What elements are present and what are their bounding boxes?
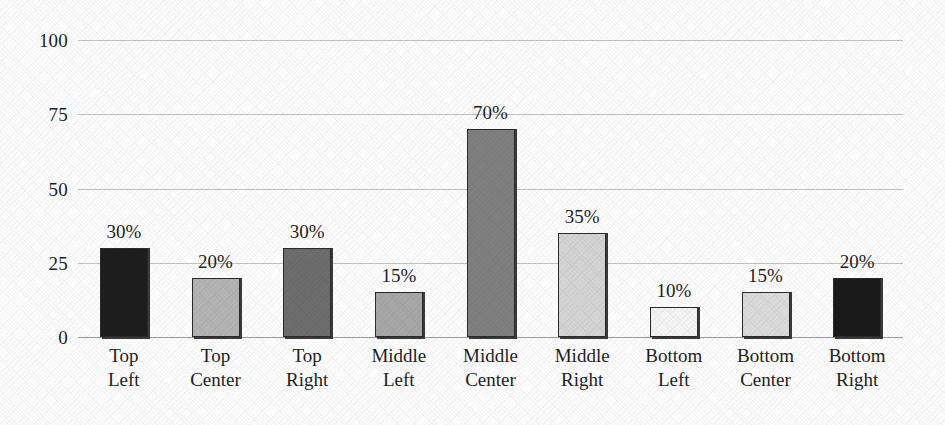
bar	[742, 292, 790, 337]
bar	[375, 292, 423, 337]
x-label-line-2: Right	[537, 368, 627, 392]
bar-group: 15%	[354, 40, 444, 337]
y-axis-tick-label: 0	[6, 328, 68, 347]
bar-group: 20%	[171, 40, 261, 337]
x-axis-tick-label: BottomCenter	[721, 344, 811, 393]
x-label-line-1: Middle	[537, 344, 627, 368]
x-label-line-2: Left	[79, 368, 169, 392]
x-axis-tick-label: MiddleRight	[537, 344, 627, 393]
bar-group: 35%	[537, 40, 627, 337]
x-label-line-2: Center	[721, 368, 811, 392]
x-axis-tick-label: BottomRight	[812, 344, 902, 393]
bar	[467, 129, 515, 337]
bar-value-label: 15%	[381, 266, 416, 285]
x-label-line-2: Right	[262, 368, 352, 392]
x-label-line-2: Center	[446, 368, 536, 392]
bar-value-label: 70%	[473, 103, 508, 122]
x-label-line-2: Left	[629, 368, 719, 392]
bar-group: 15%	[721, 40, 811, 337]
x-axis-tick-label: MiddleLeft	[354, 344, 444, 393]
x-label-line-1: Top	[79, 344, 169, 368]
bar-value-label: 20%	[840, 252, 875, 271]
bar-group: 30%	[262, 40, 352, 337]
x-label-line-2: Left	[354, 368, 444, 392]
y-axis-tick-label: 75	[6, 105, 68, 124]
x-label-line-1: Top	[262, 344, 352, 368]
y-axis-tick-label: 50	[6, 179, 68, 198]
x-label-line-1: Bottom	[629, 344, 719, 368]
bar-value-label: 35%	[565, 207, 600, 226]
x-label-line-1: Bottom	[721, 344, 811, 368]
x-axis: TopLeftTopCenterTopRightMiddleLeftMiddle…	[78, 344, 903, 414]
bar-value-label: 15%	[748, 266, 783, 285]
x-label-line-2: Right	[812, 368, 902, 392]
y-axis-tick-label: 100	[6, 31, 68, 50]
bar-value-label: 20%	[198, 252, 233, 271]
bar-value-label: 10%	[656, 281, 691, 300]
bar-group: 20%	[812, 40, 902, 337]
x-label-line-1: Top	[171, 344, 261, 368]
x-axis-tick-label: TopRight	[262, 344, 352, 393]
bar	[833, 278, 881, 337]
bar	[192, 278, 240, 337]
x-axis-tick-label: MiddleCenter	[446, 344, 536, 393]
x-label-line-2: Center	[171, 368, 261, 392]
bar	[558, 233, 606, 337]
bar	[283, 248, 331, 337]
x-axis-tick-label: TopLeft	[79, 344, 169, 393]
bar-group: 30%	[79, 40, 169, 337]
bar-chart: 0255075100 30%20%30%15%70%35%10%15%20% T…	[0, 0, 945, 425]
y-axis-tick-label: 25	[6, 253, 68, 272]
bar-group: 70%	[446, 40, 536, 337]
x-axis-tick-label: TopCenter	[171, 344, 261, 393]
bar-value-label: 30%	[290, 222, 325, 241]
axis-baseline	[78, 337, 903, 338]
bar	[650, 307, 698, 337]
x-label-line-1: Middle	[354, 344, 444, 368]
bar-group: 10%	[629, 40, 719, 337]
x-axis-tick-label: BottomLeft	[629, 344, 719, 393]
x-label-line-1: Middle	[446, 344, 536, 368]
x-label-line-1: Bottom	[812, 344, 902, 368]
y-axis: 0255075100	[0, 40, 68, 337]
plot-area: 30%20%30%15%70%35%10%15%20%	[78, 40, 903, 337]
bar-value-label: 30%	[106, 222, 141, 241]
bar	[100, 248, 148, 337]
